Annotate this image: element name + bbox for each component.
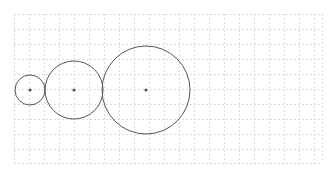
large-circle-center-dot	[144, 88, 147, 91]
diagram-canvas	[0, 0, 331, 176]
medium-circle-center-dot	[72, 88, 75, 91]
background-grid	[14, 14, 323, 164]
small-circle-center-dot	[28, 88, 31, 91]
